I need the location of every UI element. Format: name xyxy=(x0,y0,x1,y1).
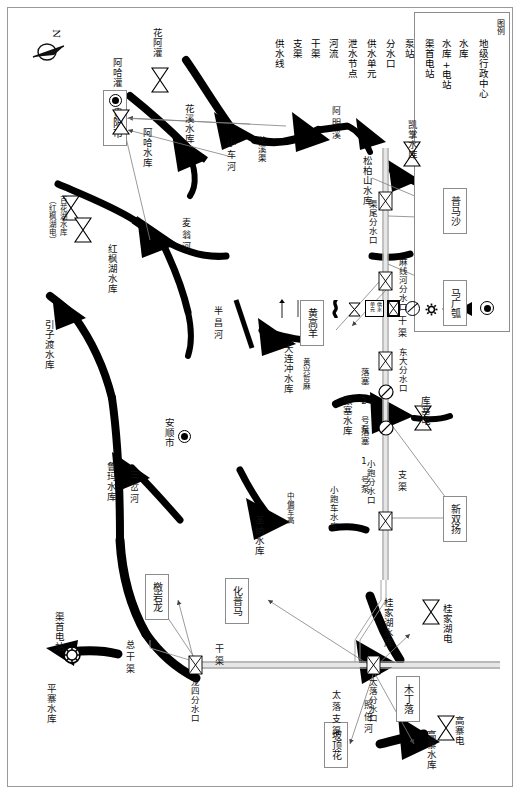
label-ps-qushou: 渠首电站 xyxy=(52,612,66,652)
node-a-ha-guan xyxy=(113,110,129,134)
label-river-xiaochehe: 小车河 xyxy=(225,138,238,174)
label-river-amingxi: 阿明溪 xyxy=(330,106,343,142)
label-ps-kaizhang: 凯掌水库 xyxy=(405,120,419,160)
label-misc-2: 中偏军高 xyxy=(284,492,295,524)
label-reservoir-gena: 革纳水库 xyxy=(252,516,266,556)
label-reservoir-yinzidu: 引子渡水库 xyxy=(42,320,56,370)
label-ps-guijiahu: 桂家湖电 xyxy=(440,604,454,644)
label-river-maiwenghe: 麦翁河 xyxy=(180,218,193,254)
discharge-nodes xyxy=(63,68,454,740)
canal-head-powerstation-icon xyxy=(64,647,80,663)
label-div-xiaopao: 小跑分水口 xyxy=(364,460,376,505)
label-reservoir-baihuahu: 百花湖水库 （红枫湖电） xyxy=(46,196,68,244)
label-ps-gaozhai: 高寨电 xyxy=(452,716,466,746)
label-reservoir-songbaishan: 松柏山水库 xyxy=(360,156,374,206)
label-ps-huaaguan: 花阿灌 xyxy=(150,28,164,58)
diversion-gates xyxy=(0,0,522,796)
label-canal-tailuo-branch: 太落支渠 xyxy=(330,690,343,738)
label-river-sanchahe: 三岔河 xyxy=(128,470,141,506)
label-div-longsi: 龙四分水口 xyxy=(188,678,200,723)
label-pump-2: 落塞 2 号泵 xyxy=(358,368,370,434)
gate-longsi xyxy=(189,656,202,674)
label-div-dongda: 东大分水口 xyxy=(396,348,408,393)
label-canal-main-bottom: 干渠 xyxy=(213,644,226,668)
label-reservoir-xiaopaoche: 小跑车水库 xyxy=(327,486,339,531)
label-river-zhaobeihe: 照倍河 xyxy=(362,700,375,736)
label-canal-zonggan: 总干渠 xyxy=(124,640,137,676)
label-ps-kusai: 库塞电 xyxy=(418,396,432,426)
label-reservoir-dalianchong: 大连冲水库 xyxy=(281,344,295,394)
label-reservoir-pingzhai: 平寨水库 xyxy=(44,684,58,724)
gate-xiaopao xyxy=(379,512,392,530)
label-canal-huaxiqu: 花溪渠 xyxy=(255,136,267,163)
node-guijiahu xyxy=(423,600,439,624)
label-river-banchanghe: 半昌河 xyxy=(212,306,225,342)
label-misc-1: 黄兴哲麻 xyxy=(300,358,311,390)
gate-tailuo xyxy=(367,656,380,674)
label-reservoir-zhangsai: 张塞水库 xyxy=(340,396,354,436)
label-div-quwei: 渠尾分水口 xyxy=(366,200,378,245)
label-reservoir-gaozhai: 高寨水库 xyxy=(424,730,438,770)
label-reservoir-hongfenghu: 红枫湖水库 xyxy=(105,244,119,294)
label-reservoir-huaxi: 花溪水库 xyxy=(182,104,196,144)
label-ps-ahaguan: 阿哈灌 xyxy=(110,58,124,88)
label-reservoir-guijiahu: 桂家湖水库 xyxy=(381,598,395,648)
label-canal-main: 干渠 xyxy=(396,316,409,340)
label-div-maxianhe: 麻线河分水口 xyxy=(396,258,408,312)
node-hua-a-guan xyxy=(152,68,168,92)
map-page: N xyxy=(0,0,522,796)
gate-dongda xyxy=(379,352,392,370)
label-reservoir-aha: 阿哈水库 xyxy=(140,128,154,168)
label-reservoir-luma: 鲁玛水库 xyxy=(104,462,118,502)
gate-qüwei xyxy=(379,192,392,210)
node-hongfeng xyxy=(75,218,91,242)
label-canal-branch: 支渠 xyxy=(396,470,409,494)
gate-maxianhe xyxy=(379,272,392,290)
pump-stations xyxy=(379,385,393,435)
